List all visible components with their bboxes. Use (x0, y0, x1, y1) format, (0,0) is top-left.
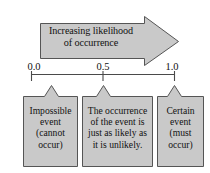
box-label-certain: Certain event (must occur) (157, 105, 204, 150)
box-label-impossible: Impossible event (cannot occur) (23, 105, 78, 150)
axis-tick-label-2: 1.0 (159, 62, 185, 73)
arrow-caption-label: Increasing likelihood of occurrence (41, 25, 141, 48)
axis-tick-label-0: 0.0 (21, 62, 47, 73)
axis-tick-label-1: 0.5 (90, 62, 116, 73)
box-label-even-chance: The occurrence of the event is just as l… (82, 105, 153, 150)
probability-scale-figure: Increasing likelihood of occurrence 0.0 … (0, 0, 210, 173)
